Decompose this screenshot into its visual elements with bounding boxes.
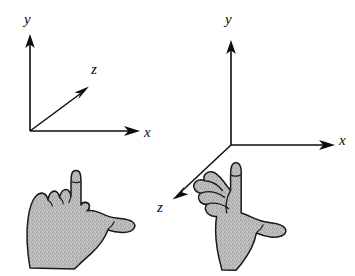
coordinate-systems-illustration bbox=[0, 0, 355, 276]
left-z-axis-label: z bbox=[91, 62, 97, 77]
right-y-axis-label: y bbox=[225, 12, 232, 27]
left-y-axis-label: y bbox=[24, 12, 31, 27]
left-x-axis-label: x bbox=[144, 125, 151, 140]
right-x-axis-label: x bbox=[339, 133, 346, 148]
right-z-axis-label: z bbox=[157, 200, 163, 215]
figure-container: y x z y x z bbox=[0, 0, 355, 276]
